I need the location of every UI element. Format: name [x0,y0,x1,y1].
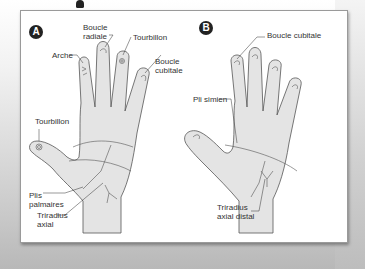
label-boucle-cubitale-a: Boucle cubitale [155,57,183,75]
label-pli-simien: Pli simien [193,95,227,104]
label-triradius-axial: Triradius axial [37,211,68,229]
label-triradius-axial-distal: Triradius axial distal [217,203,254,221]
label-boucle-cubitale-b: Boucle cubitale [267,31,321,40]
label-tourbillon-thumb: Tourbillon [35,117,69,126]
label-arche: Arche [52,51,73,60]
label-tourbillon-finger: Tourbillon [133,33,167,42]
diagram-panel: A B Arche Boucle radiale Tourbillon Bouc… [20,10,348,243]
hands-illustration [21,11,347,242]
label-plis-palmaires: Plis palmaires [29,191,64,209]
hand-a-badge: A [29,25,43,39]
pin-icon [76,0,84,8]
label-boucle-radiale: Boucle radiale [83,23,107,41]
hand-b-badge: B [199,21,213,35]
